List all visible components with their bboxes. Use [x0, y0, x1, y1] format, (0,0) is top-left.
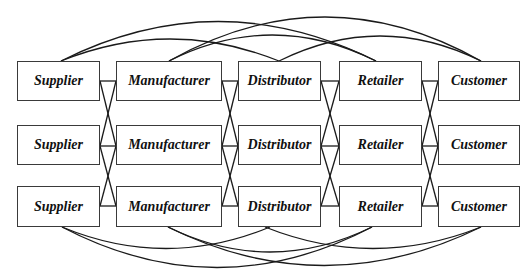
node-manufacturer-row1: Manufacturer [116, 61, 222, 101]
node-supplier-row1: Supplier [17, 61, 100, 101]
node-label: Customer [451, 73, 507, 89]
node-label: Retailer [358, 199, 404, 215]
node-label: Retailer [358, 137, 404, 153]
node-distributor-row3: Distributor [238, 186, 321, 227]
node-label: Supplier [34, 199, 83, 215]
top-arcs [61, 17, 481, 61]
node-label: Manufacturer [128, 199, 210, 215]
node-label: Retailer [358, 73, 404, 89]
node-label: Distributor [248, 137, 312, 153]
node-supplier-row2: Supplier [17, 125, 100, 165]
bottom-arcs [62, 227, 481, 268]
supply-chain-diagram: Supplier Manufacturer Distributor Retail… [0, 0, 531, 279]
node-label: Customer [451, 137, 507, 153]
node-label: Supplier [34, 73, 83, 89]
node-label: Customer [451, 199, 507, 215]
node-distributor-row2: Distributor [238, 125, 321, 165]
node-retailer-row2: Retailer [339, 125, 422, 165]
node-manufacturer-row3: Manufacturer [116, 186, 222, 227]
node-label: Manufacturer [128, 137, 210, 153]
node-distributor-row1: Distributor [238, 61, 321, 101]
node-customer-row1: Customer [438, 61, 520, 101]
node-retailer-row1: Retailer [339, 61, 422, 101]
node-label: Distributor [248, 199, 312, 215]
node-customer-row3: Customer [438, 186, 520, 227]
node-manufacturer-row2: Manufacturer [116, 125, 222, 165]
node-retailer-row3: Retailer [339, 186, 422, 227]
node-label: Supplier [34, 137, 83, 153]
node-label: Manufacturer [128, 73, 210, 89]
node-supplier-row3: Supplier [17, 186, 100, 227]
node-label: Distributor [248, 73, 312, 89]
node-customer-row2: Customer [438, 125, 520, 165]
